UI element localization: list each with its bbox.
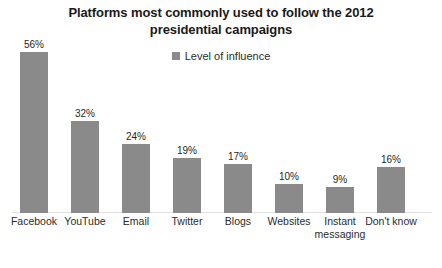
bar-category-label: Websites	[261, 215, 317, 228]
bar-rect[interactable]	[224, 164, 252, 213]
bar-category-label: Don't know	[363, 215, 419, 228]
bar-category-label: Email	[108, 215, 164, 228]
bar-column: 19%	[161, 23, 213, 213]
bar-column: 32%	[59, 23, 111, 213]
bar-group[interactable]: 56%Facebook	[8, 23, 60, 213]
bar-group[interactable]: 32%YouTube	[59, 23, 111, 213]
bar-category-label: Instantmessaging	[312, 215, 368, 241]
bar-value-label: 32%	[75, 108, 95, 119]
bar-rect[interactable]	[20, 52, 48, 213]
bar-column: 16%	[365, 23, 417, 213]
bar-group[interactable]: 9%Instantmessaging	[314, 23, 366, 213]
bar-category-label-line-1: Twitter	[159, 215, 215, 228]
bar-rect[interactable]	[326, 187, 354, 213]
bar-value-label: 17%	[228, 151, 248, 162]
bar-category-label-line-1: Instant	[312, 215, 368, 228]
bar-value-label: 10%	[279, 171, 299, 182]
bar-category-label-line-1: Blogs	[210, 215, 266, 228]
bar-category-label-line-2: messaging	[312, 228, 368, 241]
bar-value-label: 16%	[381, 154, 401, 165]
bar-group[interactable]: 24%Email	[110, 23, 162, 213]
bar-rect[interactable]	[173, 158, 201, 213]
bar-chart: Platforms most commonly used to follow t…	[0, 0, 442, 268]
bar-category-label: Blogs	[210, 215, 266, 228]
bar-category-label: Twitter	[159, 215, 215, 228]
bar-value-label: 56%	[24, 39, 44, 50]
bar-rect[interactable]	[122, 144, 150, 213]
bar-category-label: Facebook	[6, 215, 62, 228]
bar-value-label: 9%	[333, 174, 347, 185]
bar-column: 17%	[212, 23, 264, 213]
bar-category-label-line-1: YouTube	[57, 215, 113, 228]
bar-column: 9%	[314, 23, 366, 213]
bar-value-label: 24%	[126, 131, 146, 142]
bar-rect[interactable]	[275, 184, 303, 213]
bar-column: 24%	[110, 23, 162, 213]
bar-column: 56%	[8, 23, 60, 213]
bar-group[interactable]: 19%Twitter	[161, 23, 213, 213]
bar-category-label-line-1: Websites	[261, 215, 317, 228]
bar-category-label-line-1: Don't know	[363, 215, 419, 228]
bar-category-label-line-1: Facebook	[6, 215, 62, 228]
bar-value-label: 19%	[177, 145, 197, 156]
bar-rect[interactable]	[71, 121, 99, 213]
bar-rect[interactable]	[377, 167, 405, 213]
bar-group[interactable]: 17%Blogs	[212, 23, 264, 213]
bar-category-label-line-1: Email	[108, 215, 164, 228]
bar-group[interactable]: 16%Don't know	[365, 23, 417, 213]
bar-group[interactable]: 10%Websites	[263, 23, 315, 213]
bar-category-label: YouTube	[57, 215, 113, 228]
plot-area: 56%Facebook32%YouTube24%Email19%Twitter1…	[0, 0, 442, 268]
bar-column: 10%	[263, 23, 315, 213]
